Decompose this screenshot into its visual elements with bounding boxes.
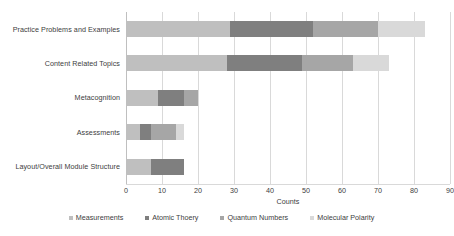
bar-row [126,12,450,46]
x-tick-label: 50 [302,186,310,195]
stacked-bar[interactable] [126,55,389,71]
legend-swatch-icon [69,216,73,220]
chart-legend: MeasurementsAtomic ThoeryQuantum Numbers… [0,213,443,222]
legend-item[interactable]: Measurements [69,213,124,222]
y-axis-label: Layout/Overall Module Structure [0,150,120,184]
x-tick-label: 10 [158,186,166,195]
legend-label: Molecular Polarity [317,213,374,222]
plot-area [126,12,450,184]
x-axis-line [126,184,450,185]
legend-item[interactable]: Quantum Numbers [220,213,288,222]
bar-segment[interactable] [126,21,230,37]
bar-segment[interactable] [313,21,378,37]
y-axis-category-labels: Practice Problems and ExamplesContent Re… [0,12,120,184]
x-axis-title: Counts [126,197,450,206]
y-axis-label: Metacognition [0,81,120,115]
bar-segment[interactable] [378,21,425,37]
bar-segment[interactable] [151,124,176,140]
x-tick-label: 90 [446,186,454,195]
x-tick-label: 60 [338,186,346,195]
x-tick-label: 70 [374,186,382,195]
x-tick-label: 80 [410,186,418,195]
legend-item[interactable]: Atomic Thoery [145,213,198,222]
legend-label: Atomic Thoery [152,213,198,222]
stacked-bar[interactable] [126,21,425,37]
stacked-bar[interactable] [126,124,184,140]
x-tick-label: 30 [230,186,238,195]
legend-swatch-icon [220,216,224,220]
x-tick-label: 20 [194,186,202,195]
legend-label: Quantum Numbers [227,213,288,222]
bar-segment[interactable] [302,55,352,71]
bar-row [126,81,450,115]
legend-swatch-icon [310,216,314,220]
y-axis-label: Practice Problems and Examples [0,12,120,46]
legend-swatch-icon [145,216,149,220]
bar-segment[interactable] [158,90,183,106]
bar-segment[interactable] [126,124,140,140]
bar-segment[interactable] [176,124,183,140]
bar-segment[interactable] [151,159,183,175]
bar-series-container [126,12,450,184]
bar-segment[interactable] [126,90,158,106]
bar-segment[interactable] [230,21,313,37]
x-tick-label: 0 [124,186,128,195]
bar-row [126,115,450,149]
legend-item[interactable]: Molecular Polarity [310,213,374,222]
bar-segment[interactable] [184,90,198,106]
x-tick-label: 40 [266,186,274,195]
bar-segment[interactable] [353,55,389,71]
bar-segment[interactable] [126,55,227,71]
bar-row [126,46,450,80]
bar-segment[interactable] [227,55,303,71]
stacked-bar[interactable] [126,159,184,175]
bar-segment[interactable] [140,124,151,140]
stacked-bar[interactable] [126,90,198,106]
gridline-90 [450,12,451,184]
legend-label: Measurements [76,213,124,222]
bar-segment[interactable] [126,159,151,175]
y-axis-label: Assessments [0,115,120,149]
y-axis-label: Content Related Topics [0,46,120,80]
bar-row [126,150,450,184]
